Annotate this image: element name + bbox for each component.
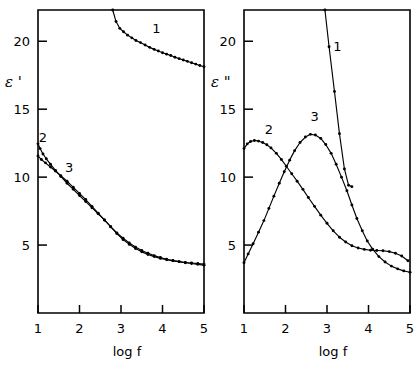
data-point [309,133,312,136]
data-point [355,217,358,220]
data-point [384,261,387,264]
data-point [350,204,353,207]
data-point [122,237,125,240]
data-point [304,136,307,139]
y-axis-label-panel-left: ε ' [5,73,22,91]
data-point [45,157,48,160]
data-point [174,56,177,59]
y-ticklabel-panel-right-2: 15 [219,102,236,117]
x-ticklabel-panel-right-4: 5 [406,321,414,336]
y-ticklabel-panel-right-0: 5 [228,238,236,253]
data-point [400,254,403,257]
data-point [402,269,405,272]
data-point [363,248,366,251]
x-axis-label-panel-right: log f [319,344,348,359]
data-point [91,205,94,208]
x-ticklabel-panel-right-3: 4 [364,321,372,336]
data-point [319,137,322,140]
plot-frame-panel-left [38,10,204,313]
data-point [171,259,174,262]
data-point [253,139,256,142]
data-point [388,250,391,253]
data-point [267,207,270,210]
data-point [275,152,278,155]
data-point [196,263,199,266]
markers-panel-left-2 [37,142,206,265]
data-point [182,59,185,62]
curve-panel-left-1 [113,10,204,67]
x-ticklabel-panel-left-0: 1 [34,321,42,336]
data-point [115,20,118,23]
data-point [261,141,264,144]
data-point [288,159,291,162]
data-point [344,241,347,244]
data-point [299,141,302,144]
data-point [139,41,142,44]
data-point [49,163,52,166]
data-point [178,57,181,60]
data-point [357,247,360,250]
data-point [319,214,322,217]
data-point [326,222,329,225]
data-point [190,262,193,265]
data-point [330,152,333,155]
data-point [178,260,181,263]
data-point [249,140,252,143]
curve-annotation-panel-left-3: 3 [65,160,73,175]
x-ticklabel-panel-left-3: 4 [158,321,166,336]
data-point [390,265,393,268]
markers-panel-right-3 [243,133,412,274]
data-point [66,180,69,183]
data-point [252,242,255,245]
data-point [394,252,397,255]
data-point [406,259,409,262]
data-point [165,53,168,56]
x-ticklabel-panel-right-1: 2 [281,321,289,336]
data-point [283,170,286,173]
data-point [332,229,335,232]
x-ticklabel-panel-left-1: 2 [75,321,83,336]
y-axis-label-panel-right: ε " [211,73,231,91]
plot-frame-panel-right [244,10,410,313]
data-point [78,192,81,195]
data-point [328,45,331,48]
data-point [361,229,364,232]
data-point [262,219,265,222]
y-ticklabel-panel-left-1: 10 [13,170,30,185]
data-point [118,27,121,30]
data-point [37,155,40,158]
data-point [323,9,326,12]
markers-panel-left-1 [111,9,205,69]
data-point [350,244,353,247]
data-point [130,36,133,39]
data-point [122,30,125,33]
data-point [140,249,143,252]
curve-annotation-panel-right-3: 3 [310,109,318,124]
data-point [111,9,114,12]
data-point [190,61,193,64]
data-point [377,255,380,258]
y-ticklabel-panel-left-3: 20 [13,34,30,49]
data-point [307,196,310,199]
data-point [147,252,150,255]
data-point [184,261,187,264]
x-ticklabel-panel-left-4: 5 [200,321,208,336]
data-point [338,236,341,239]
data-point [313,205,316,208]
data-point [44,161,47,164]
data-point [153,254,156,257]
data-point [371,248,374,251]
data-point [128,242,131,245]
data-point [338,132,341,135]
data-point [296,180,299,183]
data-point [278,182,281,185]
y-ticklabel-panel-left-2: 15 [13,102,30,117]
data-point [347,184,350,187]
x-axis-label-panel-left: log f [113,344,142,359]
data-point [243,147,246,150]
figure-container: 510152012345log fε '123510152012345log f… [0,0,420,366]
data-point [314,134,317,137]
data-point [84,198,87,201]
data-point [169,54,172,57]
curve-annotation-panel-right-1: 1 [333,39,341,54]
